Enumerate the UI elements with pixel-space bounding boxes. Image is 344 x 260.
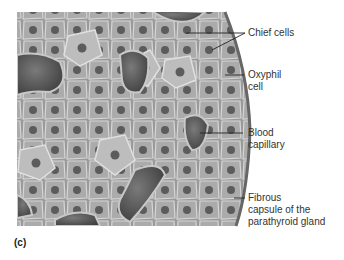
label-oxyphil-cell: Oxyphil cell — [248, 69, 281, 93]
label-chief-cells: Chief cells — [248, 27, 294, 39]
label-blood-capillary: Blood capillary — [248, 127, 285, 151]
label-fibrous-capsule: Fibrous capsule of the parathyroid gland — [248, 192, 325, 228]
panel-label: (c) — [14, 237, 26, 248]
